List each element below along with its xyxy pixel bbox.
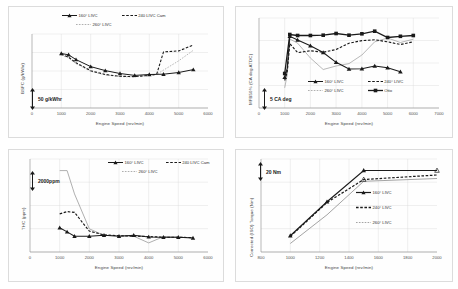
- chart-bsfc-scalebar: 50 g/kWhr: [29, 88, 62, 110]
- xtick-2000: 2000: [86, 111, 95, 116]
- series-160-livc: [61, 54, 193, 76]
- legend-item-240-livc-cam[interactable]: 240 LIVC Cam: [122, 13, 166, 18]
- legend-swatch-dotted: [356, 220, 371, 225]
- legend-swatch-solid-marker: [108, 160, 123, 165]
- xtick-6000: 6000: [409, 111, 418, 116]
- legend-item-otto[interactable]: Otto: [368, 88, 392, 93]
- legend-item-160-livc[interactable]: 160° LIVC: [308, 79, 344, 84]
- series-240-livc-cam: [61, 45, 193, 77]
- legend-label-160-livc: 160° LIVC: [373, 190, 392, 195]
- legend-label-260-livc: 260° LIVC: [325, 88, 344, 93]
- chart-torque-legend: 160° LIVC 240° LIVC 260° LIVC: [356, 190, 392, 229]
- scalebar-label-thc: 2000ppm: [38, 178, 60, 184]
- chart-bsfc-ylabel: BSFC (g/kWhr): [20, 63, 25, 94]
- legend-item-160-livc[interactable]: 160° LIVC: [108, 160, 144, 165]
- chart-mfb50-xlabel: Engine Speed (rev/min): [259, 121, 439, 126]
- chart-bsfc: 160° LIVC 240 LIVC Cam 260° LIVC: [0, 0, 229, 145]
- legend-item-260-livc[interactable]: 260° LIVC: [308, 88, 344, 93]
- legend-item-160-livc[interactable]: 160° LIVC: [356, 190, 392, 195]
- xtick-1000: 1000: [280, 111, 289, 116]
- xtick-5000: 5000: [383, 111, 392, 116]
- legend-item-260-livc[interactable]: 260° LIVC: [76, 22, 112, 27]
- xtick-7000: 7000: [434, 111, 443, 116]
- xtick-3000: 3000: [115, 111, 124, 116]
- chart-thc-legend: 160° LIVC 240 LIVC Cam 260° LIVC: [108, 160, 210, 177]
- scalebar-label-bsfc: 50 g/kWhr: [38, 96, 62, 102]
- figure-panel-grid: 160° LIVC 240 LIVC Cam 260° LIVC: [0, 0, 458, 289]
- legend-item-240-livc[interactable]: 240° LIVC: [368, 79, 404, 84]
- legend-label-240-livc-cam: 240 LIVC Cam: [182, 160, 209, 165]
- legend-swatch-dashed: [122, 13, 137, 18]
- series-240-livc: [285, 40, 414, 81]
- scalebar-label-torque: 20 Nm: [266, 169, 281, 175]
- chart-bsfc-xlabel: Engine Speed (rev/min): [32, 121, 208, 126]
- chart-thc-xlabel: Engine Speed (rev/min): [30, 265, 208, 270]
- legend-swatch-dashed: [166, 160, 181, 165]
- chart-torque-ylabel: Corrected (ISO) Torque (Nm): [249, 198, 254, 257]
- xtick-3000: 3000: [114, 255, 123, 260]
- legend-item-160-livc[interactable]: 160° LIVC: [62, 13, 98, 18]
- xtick-1000: 1000: [286, 255, 295, 260]
- chart-mfb50-legend: 160° LIVC 240° LIVC 260° LIVC: [308, 79, 403, 96]
- series-240-livc-cam: [60, 212, 193, 238]
- legend-swatch-dotted: [122, 169, 137, 174]
- legend-item-240-livc[interactable]: 240° LIVC: [356, 205, 392, 210]
- xtick-6000: 6000: [203, 111, 212, 116]
- xtick-4000: 4000: [357, 111, 366, 116]
- legend-label-260-livc: 260° LIVC: [373, 220, 392, 225]
- legend-swatch-dotted: [308, 88, 323, 93]
- legend-label-160-livc: 160° LIVC: [125, 160, 144, 165]
- legend-label-240-livc-cam: 240 LIVC Cam: [138, 13, 165, 18]
- legend-item-260-livc[interactable]: 260° LIVC: [122, 169, 158, 174]
- legend-item-260-livc[interactable]: 260° LIVC: [356, 220, 392, 225]
- xtick-6000: 6000: [203, 255, 212, 260]
- legend-swatch-solid-marker: [356, 190, 371, 195]
- scalebar-label-mfb50: 5 CA deg: [270, 96, 291, 102]
- legend-label-260-livc: 260° LIVC: [93, 22, 112, 27]
- legend-label-240-livc: 240° LIVC: [373, 205, 392, 210]
- legend-swatch-dashed: [368, 79, 383, 84]
- xtick-5000: 5000: [174, 255, 183, 260]
- legend-label-240-livc: 240° LIVC: [384, 79, 403, 84]
- chart-torque: 160° LIVC 240° LIVC 260° LIVC: [229, 145, 458, 289]
- legend-label-260-livc: 260° LIVC: [139, 169, 158, 174]
- xtick-0: 0: [258, 111, 260, 116]
- chart-torque-scalebar: 20 Nm: [257, 162, 281, 181]
- xtick-1000: 1000: [57, 111, 66, 116]
- xtick-800: 800: [258, 255, 265, 260]
- xtick-2000: 2000: [85, 255, 94, 260]
- chart-mfb50-ylabel: MFB50% (CA deg ATDC): [248, 54, 253, 105]
- xtick-5000: 5000: [174, 111, 183, 116]
- chart-thc-ylabel: THC (ppm): [21, 207, 26, 230]
- legend-label-otto: Otto: [384, 88, 392, 93]
- xtick-1800: 1800: [403, 255, 412, 260]
- chart-bsfc-legend: 160° LIVC 240 LIVC Cam 260° LIVC: [62, 13, 166, 30]
- xtick-4000: 4000: [145, 111, 154, 116]
- chart-mfb50-scalebar: 5 CA deg: [261, 88, 291, 110]
- xtick-2000: 2000: [432, 255, 441, 260]
- legend-label-160-livc: 160° LIVC: [79, 13, 98, 18]
- legend-swatch-solid-marker: [62, 13, 77, 18]
- xtick-1200: 1200: [315, 255, 324, 260]
- xtick-0: 0: [29, 255, 31, 260]
- legend-swatch-solid-marker: [308, 79, 323, 84]
- series-160-livc: [285, 36, 401, 77]
- xtick-4000: 4000: [144, 255, 153, 260]
- scalebar-arrow-icon: [29, 88, 36, 110]
- xtick-1600: 1600: [374, 255, 383, 260]
- legend-label-160-livc: 160° LIVC: [325, 79, 344, 84]
- gridlines: [261, 159, 437, 252]
- xtick-1400: 1400: [344, 255, 353, 260]
- scalebar-arrow-icon: [261, 88, 268, 110]
- legend-swatch-solid-square: [368, 88, 383, 93]
- chart-mfb50: 160° LIVC 240° LIVC 260° LIVC: [229, 0, 458, 145]
- chart-torque-plot: [261, 159, 437, 252]
- chart-thc-scalebar: 2000ppm: [29, 171, 60, 191]
- xtick-2000: 2000: [306, 111, 315, 116]
- legend-swatch-dashed: [356, 205, 371, 210]
- legend-item-240-livc-cam[interactable]: 240 LIVC Cam: [166, 160, 210, 165]
- xtick-0: 0: [31, 111, 33, 116]
- chart-torque-xlabel: Engine Speed (rev/min): [261, 265, 437, 270]
- series-260-livc: [60, 171, 193, 243]
- xtick-3000: 3000: [331, 111, 340, 116]
